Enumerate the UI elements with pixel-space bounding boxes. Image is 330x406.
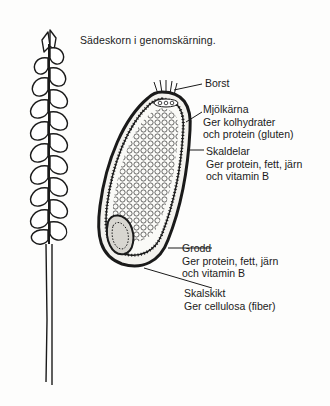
label-line: Ger protein, fett, järn xyxy=(182,255,278,268)
label-line: och vitamin B xyxy=(182,267,278,280)
label-heading: Skalskikt xyxy=(184,287,276,300)
label-heading: Grodd xyxy=(182,242,278,255)
label-grodd: Grodd Ger protein, fett, järn och vitami… xyxy=(182,242,278,280)
label-line: och protein (gluten) xyxy=(203,128,293,141)
label-line: Ger kolhydrater xyxy=(203,116,293,129)
label-mjolkarna: Mjölkärna Ger kolhydrater och protein (g… xyxy=(203,103,293,141)
grain-cross-section-icon xyxy=(99,80,191,266)
label-borst: Borst xyxy=(205,77,230,90)
illustration-layer xyxy=(0,0,330,406)
label-skaldelar: Skaldelar Ger protein, fett, järn och vi… xyxy=(206,145,302,183)
label-heading: Mjölkärna xyxy=(203,103,293,116)
diagram-title: Sädeskorn i genomskärning. xyxy=(80,34,216,46)
label-line: och vitamin B xyxy=(206,170,302,183)
label-skalskikt: Skalskikt Ger cellulosa (fiber) xyxy=(184,287,276,312)
label-line: Ger protein, fett, järn xyxy=(206,158,302,171)
wheat-ear-icon xyxy=(31,30,67,385)
label-heading: Skaldelar xyxy=(206,145,302,158)
label-line: Ger cellulosa (fiber) xyxy=(184,300,276,313)
diagram-canvas: Sädeskorn i genomskärning. Borst Mjölkär… xyxy=(0,0,330,406)
label-heading: Borst xyxy=(205,77,230,90)
